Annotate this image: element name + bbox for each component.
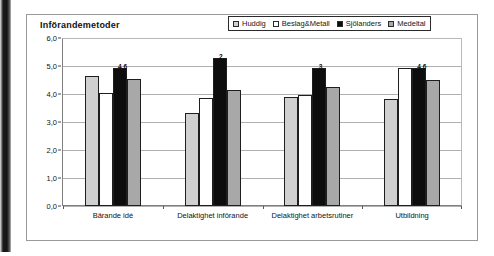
legend-item[interactable]: Beslag&Metall [273,20,330,28]
x-axis-tick [163,206,164,209]
y-axis-tick [58,206,61,207]
y-axis-tick-label: 0,0 [47,202,57,211]
y-axis-tick-label: 3,0 [47,118,57,127]
x-axis-labels: Bärande idéDelaktighet införandeDelaktig… [63,211,462,220]
legend-swatch-icon [273,21,279,27]
chart-frame: Införandemetoder HuddigBeslag&MetallSjöl… [26,14,478,241]
bar[interactable] [199,98,213,206]
scan-edge-artifact [0,0,11,256]
bar-group: 4,6 [362,38,462,206]
x-axis-ticks [63,206,462,210]
bar[interactable] [426,80,440,206]
x-axis-category-label: Delaktighet införande [163,211,263,220]
bar[interactable] [99,93,113,206]
bar[interactable] [85,76,99,206]
legend-item[interactable]: Huddig [233,20,266,28]
legend-label: Huddig [242,20,266,28]
y-axis-tick [58,178,61,179]
y-axis-tick [58,38,61,39]
y-axis-tick-label: 6,0 [47,34,57,43]
x-axis-tick [362,206,363,209]
bar[interactable]: 4,6 [412,68,426,206]
x-axis-category-label: Utbildning [362,211,462,220]
bar-value-label: 2 [219,54,223,61]
x-axis-category-label: Bärande idé [63,211,163,220]
y-axis-tick [58,150,61,151]
legend-label: Medeltal [397,20,425,28]
bar[interactable] [127,79,141,206]
bar-value-label: 3 [319,64,323,71]
chart-title: Införandemetoder [40,20,120,30]
x-axis-category-label: Delaktighet arbetsrutiner [263,211,363,220]
bar[interactable] [284,97,298,206]
x-axis-tick [263,206,264,209]
legend-swatch-icon [233,21,239,27]
chart-legend: HuddigBeslag&MetallSjölandersMedeltal [228,16,431,31]
legend-item[interactable]: Sjölanders [337,20,381,28]
page-bottom-margin [0,252,494,256]
y-axis-tick-label: 1,0 [47,174,57,183]
bar[interactable]: 3 [312,68,326,206]
y-axis-tick [58,122,61,123]
x-axis-tick [63,206,64,209]
bar-value-label: 4,6 [417,64,426,71]
bar-group: 3 [263,38,363,206]
bar[interactable]: 2 [213,58,227,206]
y-axis-tick [58,94,61,95]
bar-group: 2 [163,38,263,206]
bar[interactable] [326,87,340,206]
legend-swatch-icon [388,21,394,27]
y-axis-tick-label: 4,0 [47,90,57,99]
bar[interactable] [185,113,199,206]
y-axis: 6,05,04,03,02,01,00,0 [33,38,61,206]
legend-label: Beslag&Metall [282,20,330,28]
bar[interactable] [227,90,241,206]
bar-groups: 4,6234,6 [63,38,462,206]
legend-label: Sjölanders [346,20,381,28]
bar[interactable]: 4,6 [113,68,127,206]
bar[interactable] [384,99,398,206]
y-axis-tick-label: 5,0 [47,62,57,71]
bar-value-label: 4,6 [118,64,127,71]
y-axis-tick-label: 2,0 [47,146,57,155]
y-axis-tick [58,66,61,67]
bar-group: 4,6 [63,38,163,206]
legend-swatch-icon [337,21,343,27]
bar[interactable] [298,95,312,206]
chart-page: Införandemetoder HuddigBeslag&MetallSjöl… [0,0,494,256]
x-axis-tick [461,206,462,209]
legend-item[interactable]: Medeltal [388,20,425,28]
bar[interactable] [398,68,412,206]
